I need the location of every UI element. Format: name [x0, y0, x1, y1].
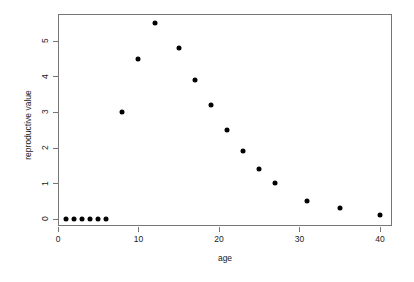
y-axis-tick	[53, 219, 58, 220]
y-axis-tick	[53, 76, 58, 77]
y-axis-tick	[53, 148, 58, 149]
x-axis-tick	[219, 227, 220, 232]
y-axis-tick-label: 0	[40, 213, 51, 224]
y-axis-tick	[53, 183, 58, 184]
y-axis-tick-label: 4	[40, 71, 51, 82]
y-axis-tick-label: 5	[40, 35, 51, 46]
y-axis-tick-label: 3	[40, 106, 51, 117]
x-axis-tick-label: 20	[208, 234, 230, 245]
x-axis-label: age	[58, 253, 392, 263]
x-axis-tick	[138, 227, 139, 232]
x-axis-tick-label: 0	[47, 234, 69, 245]
y-axis-tick-label: 1	[40, 178, 51, 189]
x-axis-tick-label: 10	[127, 234, 149, 245]
y-axis-tick	[53, 41, 58, 42]
y-axis-tick-label: 2	[40, 142, 51, 153]
x-axis-tick-label: 40	[369, 234, 391, 245]
x-axis-tick-label: 30	[288, 234, 310, 245]
x-axis-tick	[58, 227, 59, 232]
y-axis-label: reproductive value	[23, 65, 33, 185]
plot-frame	[58, 14, 392, 226]
scatter-plot-figure: 012345010203040 reproductive value age	[0, 0, 414, 282]
y-axis-tick	[53, 112, 58, 113]
x-axis-tick	[299, 227, 300, 232]
x-axis-tick	[380, 227, 381, 232]
